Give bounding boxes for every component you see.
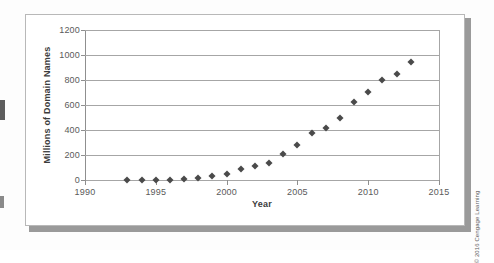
x-axis-tick-label: 2005 [287, 187, 308, 197]
x-axis-tick-mark [227, 180, 228, 185]
x-axis-tick-label: 1995 [145, 187, 166, 197]
x-axis-tick-label: 2010 [358, 187, 379, 197]
data-point-marker [266, 159, 273, 166]
y-axis-title-label: Millions of Domain Names [42, 47, 52, 164]
data-point-marker [294, 141, 301, 148]
y-axis-tick-label: 1200 [59, 25, 80, 35]
plot-area: 0200400600800100012001990199520002005201… [85, 30, 439, 180]
gridline-horizontal [85, 155, 439, 156]
data-point-marker [379, 76, 386, 83]
data-point-marker [308, 129, 315, 136]
copyright-credit-label: © 2016 Cengage Learning [474, 191, 480, 263]
data-point-marker [223, 170, 230, 177]
x-axis-tick-label: 2000 [216, 187, 237, 197]
x-axis-tick-mark [297, 180, 298, 185]
x-axis-tick-mark [439, 180, 440, 185]
data-point-marker [181, 175, 188, 182]
x-axis-title: Year [85, 199, 439, 209]
x-axis-tick-mark [85, 180, 86, 185]
data-point-marker [393, 70, 400, 77]
data-point-marker [138, 176, 145, 183]
page-edge-marker-top [0, 100, 5, 120]
data-point-marker [407, 58, 414, 65]
y-axis-tick-label: 600 [64, 100, 80, 110]
data-point-marker [280, 150, 287, 157]
y-axis-tick-mark [81, 155, 85, 156]
y-axis-title: Millions of Domain Names [40, 30, 54, 180]
data-point-marker [237, 165, 244, 172]
y-axis-tick-label: 1000 [59, 50, 80, 60]
y-axis-tick-mark [81, 55, 85, 56]
y-axis-tick-mark [81, 130, 85, 131]
plot-right-border [439, 30, 440, 180]
gridline-horizontal [85, 55, 439, 56]
data-point-marker [209, 172, 216, 179]
data-point-marker [365, 88, 372, 95]
y-axis-tick-label: 0 [75, 175, 80, 185]
y-axis-tick-mark [81, 80, 85, 81]
x-axis-tick-mark [368, 180, 369, 185]
y-axis-tick-label: 400 [64, 125, 80, 135]
gridline-horizontal [85, 130, 439, 131]
page-edge-marker-bottom [0, 196, 4, 208]
data-point-marker [152, 176, 159, 183]
data-point-marker [251, 162, 258, 169]
copyright-credit: © 2016 Cengage Learning [470, 120, 484, 230]
figure-frame: Millions of Domain Names 020040060080010… [25, 14, 465, 226]
y-axis-tick-label: 200 [64, 150, 80, 160]
y-axis-tick-mark [81, 105, 85, 106]
x-axis-tick-label: 2015 [429, 187, 450, 197]
gridline-horizontal [85, 80, 439, 81]
x-axis-tick-label: 1990 [75, 187, 96, 197]
y-axis-tick-label: 800 [64, 75, 80, 85]
y-axis-tick-mark [81, 30, 85, 31]
data-point-marker [336, 114, 343, 121]
data-point-marker [166, 176, 173, 183]
data-point-marker [124, 176, 131, 183]
gridline-horizontal [85, 30, 439, 31]
scatter-chart: Millions of Domain Names 020040060080010… [26, 15, 466, 227]
gridline-horizontal [85, 105, 439, 106]
